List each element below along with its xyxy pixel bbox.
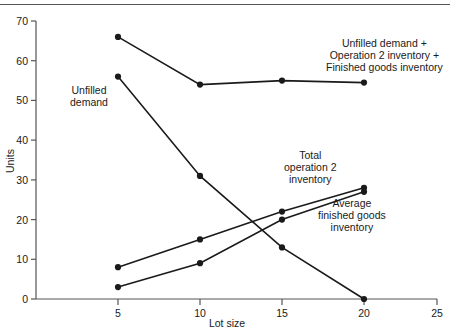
x-tick-label-5: 5 — [103, 308, 133, 319]
annotation-op2-line3: inventory — [284, 174, 337, 186]
annotation-unfilled-line2: demand — [70, 97, 108, 109]
annotation-total-line3: Finished goods inventory — [326, 62, 443, 74]
y-tick-label-0: 0 — [2, 294, 28, 305]
y-tick-label-20: 20 — [2, 215, 28, 226]
annotation-operation2-inventory: Total operation 2 inventory — [284, 150, 337, 185]
y-axis-ticks — [31, 21, 36, 299]
x-axis-ticks — [118, 299, 437, 305]
annotation-total-line2: Operation 2 inventory + — [326, 50, 443, 62]
y-axis-title: Units — [4, 138, 16, 184]
annotation-total-cost: Unfilled demand + Operation 2 inventory … — [326, 38, 443, 73]
x-axis-title: Lot size — [192, 317, 262, 329]
x-tick-label-20: 20 — [349, 308, 379, 319]
annotation-fg-line2: finished goods — [318, 210, 386, 222]
annotation-finished-goods-inventory: Average finished goods inventory — [318, 198, 386, 233]
annotation-op2-line2: operation 2 — [284, 162, 337, 174]
x-tick-label-15: 15 — [267, 308, 297, 319]
y-tick-label-60: 60 — [2, 56, 28, 67]
chart-figure: 70 60 50 40 30 20 10 0 5 10 15 20 25 Uni… — [0, 0, 450, 331]
y-tick-label-70: 70 — [2, 16, 28, 27]
series-unfilled-demand-line — [115, 74, 367, 303]
annotation-unfilled-demand: Unfilled demand — [70, 85, 108, 109]
annotation-fg-line3: inventory — [318, 222, 386, 234]
y-tick-label-50: 50 — [2, 95, 28, 106]
y-tick-label-10: 10 — [2, 254, 28, 265]
x-tick-label-25: 25 — [422, 308, 450, 319]
